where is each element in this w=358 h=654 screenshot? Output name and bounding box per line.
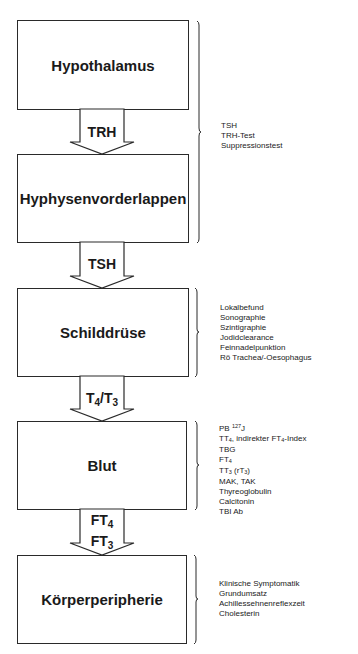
test-item: MAK, TAK bbox=[219, 477, 306, 487]
brace-icon bbox=[196, 21, 202, 243]
brace-icon bbox=[194, 421, 200, 510]
item-text: Calcitonin bbox=[219, 497, 254, 506]
label-sub: 3 bbox=[113, 397, 119, 408]
arrow-tsh: TSH bbox=[70, 242, 134, 289]
label-sub: 4 bbox=[108, 519, 114, 530]
box-label: Hypothalamus bbox=[51, 57, 154, 74]
test-item: Rö Trachea/-Oesophagus bbox=[220, 353, 312, 363]
item-sub: 4 bbox=[229, 458, 232, 464]
test-item: Thyreoglobulin bbox=[219, 487, 306, 497]
item-text: FT bbox=[219, 455, 229, 464]
arrow-label: T4/T3 bbox=[70, 390, 134, 411]
item-text: MAK, TAK bbox=[219, 477, 256, 486]
test-item: Jodidclearance bbox=[220, 333, 312, 343]
arrow-label: FT4 FT3 bbox=[70, 512, 134, 554]
label-part: FT bbox=[91, 533, 108, 549]
brace-icon bbox=[193, 555, 199, 644]
bracket-koerperperipherie bbox=[193, 555, 199, 644]
arrow-label: TSH bbox=[70, 256, 134, 272]
item-sup: 127 bbox=[232, 423, 241, 429]
arrow-ft4-ft3: FT4 FT3 bbox=[70, 509, 134, 556]
box-label: Hyphysenvorderlappen bbox=[20, 190, 187, 207]
test-item: Achillessehnenreflexzeit bbox=[219, 599, 305, 609]
test-list-koerperperipherie: Klinische Symptomatik Grundumsatz Achill… bbox=[219, 579, 305, 619]
test-item: TBG bbox=[219, 445, 306, 455]
test-item: PB 127J bbox=[219, 421, 306, 434]
label-part: /T bbox=[100, 390, 112, 406]
label-part: FT bbox=[91, 512, 108, 528]
item-text: TT bbox=[219, 434, 229, 443]
item-text: J bbox=[241, 424, 245, 433]
item-text: PB bbox=[219, 424, 232, 433]
test-item: FT4 bbox=[219, 455, 306, 466]
test-item: TRH-Test bbox=[221, 131, 282, 141]
test-item: TSH bbox=[221, 121, 282, 131]
label-sub: 3 bbox=[108, 540, 114, 551]
test-item: Szintigraphie bbox=[220, 323, 312, 333]
test-list-schilddruese: Lokalbefund Sonographie Szintigraphie Jo… bbox=[220, 303, 312, 363]
test-list-blut: PB 127J TT4, indirekter FT4-Index TBG FT… bbox=[219, 421, 306, 517]
bracket-hypothalamus-hypophyse bbox=[196, 21, 202, 243]
box-hypothalamus: Hypothalamus bbox=[17, 20, 189, 110]
test-item: TBI Ab bbox=[219, 507, 306, 517]
test-item: Cholesterin bbox=[219, 609, 305, 619]
item-text: , indirekter FT bbox=[232, 434, 281, 443]
test-item: Calcitonin bbox=[219, 497, 306, 507]
item-text: TBI Ab bbox=[219, 507, 243, 516]
test-item: Klinische Symptomatik bbox=[219, 579, 305, 589]
brace-icon bbox=[194, 288, 200, 377]
bracket-schilddruese bbox=[194, 288, 200, 377]
item-text: -Index bbox=[284, 434, 306, 443]
item-text: TBG bbox=[219, 445, 235, 454]
arrow-label: TRH bbox=[70, 124, 134, 140]
arrow-t4-t3: T4/T3 bbox=[70, 376, 134, 422]
arrow-trh: TRH bbox=[70, 109, 134, 155]
box-label: Körperperipherie bbox=[41, 591, 163, 608]
box-label: Schilddrüse bbox=[60, 324, 146, 341]
test-item: TT4, indirekter FT4-Index bbox=[219, 434, 306, 445]
box-hypophysenvorderlappen: Hyphysenvorderlappen bbox=[17, 154, 189, 243]
item-text: Thyreoglobulin bbox=[219, 487, 271, 496]
test-item: Grundumsatz bbox=[219, 589, 305, 599]
test-list-hypothalamus-hypophyse: TSH TRH-Test Suppressionstest bbox=[221, 121, 282, 151]
bracket-blut bbox=[194, 421, 200, 510]
box-schilddruese: Schilddrüse bbox=[17, 288, 189, 377]
test-item: TT3 (rT3) bbox=[219, 466, 306, 477]
item-text: (rT bbox=[232, 466, 244, 475]
box-koerperperipherie: Körperperipherie bbox=[17, 555, 187, 644]
test-item: Suppressionstest bbox=[221, 141, 282, 151]
test-item: Lokalbefund bbox=[220, 303, 312, 313]
test-item: Feinnadelpunktion bbox=[220, 343, 312, 353]
test-item: Sonographie bbox=[220, 313, 312, 323]
item-text: TT bbox=[219, 466, 229, 475]
item-text: ) bbox=[247, 466, 250, 475]
box-label: Blut bbox=[87, 457, 116, 474]
box-blut: Blut bbox=[17, 421, 187, 510]
